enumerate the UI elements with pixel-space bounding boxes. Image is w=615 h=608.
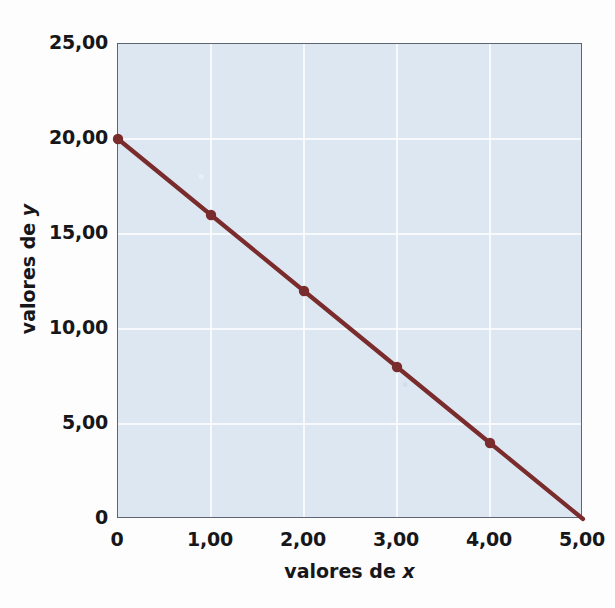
figure-root: s os 11 nm = 1 x 10 m, ou em piedra 1 x …	[0, 0, 615, 608]
y-axis-tick-label: 0	[95, 506, 108, 528]
x-axis-title-prefix: valores de	[284, 560, 402, 582]
data-point-marker	[299, 286, 309, 296]
y-axis-title: valores de y	[17, 189, 39, 349]
x-axis-tick-labels: 01,002,003,004,005,00	[117, 528, 582, 558]
y-axis-title-variable: y	[17, 204, 39, 216]
x-axis-tick-label: 2,00	[280, 528, 326, 550]
x-axis-tick-label: 0	[110, 528, 123, 550]
x-axis-title-variable: x	[402, 560, 414, 582]
data-series-line	[118, 44, 583, 519]
y-axis-tick-label: 10,00	[49, 316, 108, 338]
y-axis-tick-label: 15,00	[49, 221, 108, 243]
plot-area	[117, 43, 582, 518]
data-point-marker	[392, 362, 402, 372]
x-axis-tick-label: 4,00	[466, 528, 512, 550]
y-axis-title-prefix: valores de	[17, 216, 39, 334]
y-axis-tick-label: 25,00	[49, 31, 108, 53]
series-line	[118, 139, 583, 519]
y-axis-tick-label: 20,00	[49, 126, 108, 148]
x-axis-tick-label: 1,00	[187, 528, 233, 550]
x-axis-tick-label: 5,00	[559, 528, 605, 550]
data-point-marker	[113, 134, 123, 144]
data-point-marker	[206, 210, 216, 220]
x-axis-tick-label: 3,00	[373, 528, 419, 550]
y-axis-tick-label: 5,00	[62, 411, 108, 433]
data-point-marker	[485, 438, 495, 448]
x-axis-title: valores de x	[117, 560, 582, 582]
